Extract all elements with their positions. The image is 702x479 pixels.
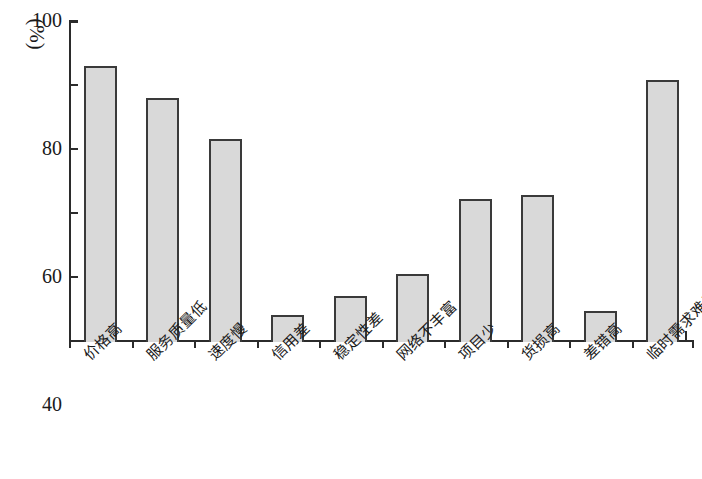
bar xyxy=(146,98,179,342)
y-tick-label: 40 xyxy=(42,394,62,414)
x-tick xyxy=(69,340,71,348)
bar-chart: (%) 020406080100 价格高服务质量低速度慢信用差稳定性差网络不丰富… xyxy=(0,0,702,479)
y-tick: 40 xyxy=(69,212,78,214)
x-tick xyxy=(257,340,259,348)
y-tick: 100 xyxy=(69,20,78,22)
y-tick-label: 100 xyxy=(32,10,62,30)
x-tick xyxy=(194,340,196,348)
y-tick: 80 xyxy=(69,84,78,86)
y-tick: 20 xyxy=(69,276,78,278)
x-tick xyxy=(132,340,134,348)
x-tick xyxy=(569,340,571,348)
bar xyxy=(84,66,117,342)
y-axis-line xyxy=(69,21,71,342)
x-tick xyxy=(382,340,384,348)
x-tick xyxy=(444,340,446,348)
x-tick xyxy=(632,340,634,348)
x-tick xyxy=(507,340,509,348)
y-tick-label: 80 xyxy=(42,138,62,158)
plot-area: 020406080100 xyxy=(69,21,694,341)
bar xyxy=(209,139,242,342)
x-tick xyxy=(692,340,694,348)
y-tick: 60 xyxy=(69,148,78,150)
x-tick xyxy=(319,340,321,348)
bar xyxy=(646,80,679,342)
y-tick-label: 60 xyxy=(42,266,62,286)
